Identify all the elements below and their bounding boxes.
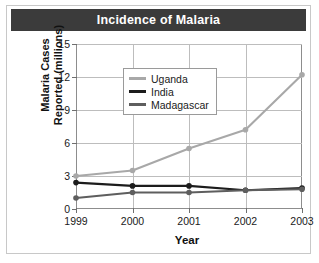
x-tick-label: 2001 [177,215,200,227]
chart-title: Incidence of Malaria [97,13,220,27]
data-point-madagascar-1999 [73,195,79,201]
data-point-madagascar-2002 [243,188,249,194]
data-point-uganda-2000 [130,168,136,174]
x-tick-label: 2000 [121,215,144,227]
y-tick-label: 0 [64,203,70,215]
legend-item-india: India [129,85,209,98]
x-tick-label: 1999 [64,215,87,227]
data-point-uganda-2002 [243,127,249,133]
legend-swatch-madagascar [129,103,146,106]
plot-area: 03691215 19992000200120022003 UgandaIndi… [76,44,302,209]
chart-legend: UgandaIndiaMadagascar [123,68,217,115]
data-point-madagascar-2003 [299,186,305,192]
x-tick-label: 2003 [290,215,313,227]
legend-item-uganda: Uganda [129,72,209,85]
x-tick-mark [302,208,303,213]
data-point-madagascar-2001 [186,190,192,196]
chart-title-banner: Incidence of Malaria [11,9,306,31]
data-point-uganda-2003 [299,72,305,78]
data-point-india-1999 [73,180,79,186]
y-tick-label: 15 [58,38,70,50]
data-point-india-2000 [130,183,136,189]
legend-label: Madagascar [151,99,209,111]
chart-figure: Incidence of Malaria Malaria Cases Repor… [6,5,311,254]
y-tick-label: 3 [64,170,70,182]
legend-swatch-india [129,90,146,93]
x-tick-label: 2002 [234,215,257,227]
x-axis-title: Year [67,234,307,246]
legend-label: India [151,86,174,98]
data-point-madagascar-2000 [130,190,136,196]
legend-label: Uganda [151,73,188,85]
y-axis-title-line1: Malaria Cases [39,38,51,111]
y-tick-label: 6 [64,137,70,149]
data-point-uganda-2001 [186,146,192,152]
data-point-uganda-1999 [73,173,79,179]
y-tick-label: 12 [58,71,70,83]
legend-swatch-uganda [129,77,146,80]
data-point-india-2001 [186,183,192,189]
legend-item-madagascar: Madagascar [129,98,209,111]
y-tick-label: 9 [64,104,70,116]
